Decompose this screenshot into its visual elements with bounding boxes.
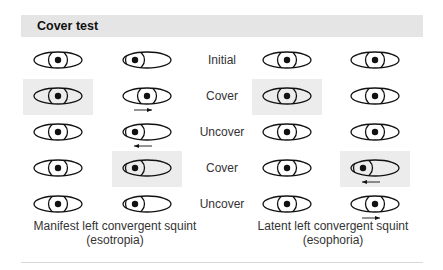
eye-icon	[340, 79, 410, 115]
eye-cell	[23, 43, 93, 79]
eye-cell	[23, 187, 93, 223]
eye-icon	[252, 43, 322, 79]
arrow-right-icon	[134, 108, 152, 112]
pupil-icon	[372, 57, 378, 63]
eye-cell	[112, 115, 182, 151]
caption-esophoria: Latent left convergent squint (esophoria…	[240, 219, 426, 247]
pupil-icon	[372, 129, 378, 135]
eye-cell	[340, 151, 410, 187]
pupil-icon	[55, 201, 61, 207]
pupil-icon	[132, 201, 138, 207]
row-label-initial: Initial	[187, 53, 257, 67]
header-bar: Cover test	[21, 15, 423, 37]
eye-icon	[252, 115, 322, 151]
pupil-icon	[132, 57, 138, 63]
pupil-icon	[55, 93, 61, 99]
row-label-uncover-2: Uncover	[187, 197, 257, 211]
caption-esotropia-title: Manifest left convergent squint	[22, 219, 208, 233]
eye-icon	[340, 187, 410, 223]
eye-cell	[23, 115, 93, 151]
diagram-title: Cover test	[37, 19, 98, 33]
eye-icon	[340, 151, 410, 187]
eye-icon	[112, 187, 182, 223]
eye-cell	[252, 115, 322, 151]
caption-esophoria-subtitle: (esophoria)	[240, 233, 426, 247]
eye-icon	[340, 115, 410, 151]
pupil-icon	[284, 93, 290, 99]
pupil-icon	[284, 201, 290, 207]
eye-icon	[23, 79, 93, 115]
arrow-left-icon	[362, 180, 380, 184]
eye-icon	[23, 43, 93, 79]
eye-cell	[340, 115, 410, 151]
eye-cell	[252, 151, 322, 187]
eye-cell	[112, 79, 182, 115]
pupil-icon	[372, 93, 378, 99]
eye-cell	[340, 43, 410, 79]
eye-icon	[112, 43, 182, 79]
eye-cell	[252, 79, 322, 115]
pupil-icon	[132, 165, 138, 171]
eye-cell	[112, 43, 182, 79]
pupil-icon	[132, 129, 138, 135]
row-label-cover: Cover	[187, 89, 257, 103]
pupil-icon	[360, 165, 366, 171]
eye-cell	[340, 187, 410, 223]
pupil-icon	[284, 165, 290, 171]
eye-icon	[23, 151, 93, 187]
eye-icon	[112, 79, 182, 115]
pupil-icon	[55, 129, 61, 135]
eye-icon	[252, 79, 322, 115]
eye-cell	[340, 79, 410, 115]
pupil-icon	[144, 93, 150, 99]
eye-icon	[23, 187, 93, 223]
eye-cell	[252, 43, 322, 79]
eye-cell	[23, 151, 93, 187]
row-label-uncover: Uncover	[187, 125, 257, 139]
row-label-cover-2: Cover	[187, 161, 257, 175]
eye-icon	[252, 151, 322, 187]
caption-esophoria-title: Latent left convergent squint	[240, 219, 426, 233]
eye-icon	[340, 43, 410, 79]
eye-icon	[252, 187, 322, 223]
eye-icon	[112, 115, 182, 151]
eye-cell	[112, 187, 182, 223]
eye-cell	[252, 187, 322, 223]
pupil-icon	[284, 57, 290, 63]
pupil-icon	[55, 165, 61, 171]
bottom-divider	[21, 262, 423, 263]
caption-esotropia-subtitle: (esotropia)	[22, 233, 208, 247]
eye-cell	[23, 79, 93, 115]
caption-esotropia: Manifest left convergent squint (esotrop…	[22, 219, 208, 247]
eye-icon	[23, 115, 93, 151]
pupil-icon	[372, 201, 378, 207]
pupil-icon	[284, 129, 290, 135]
arrow-left-icon	[134, 144, 152, 148]
eye-cell	[112, 151, 182, 187]
eye-icon	[112, 151, 182, 187]
pupil-icon	[55, 57, 61, 63]
